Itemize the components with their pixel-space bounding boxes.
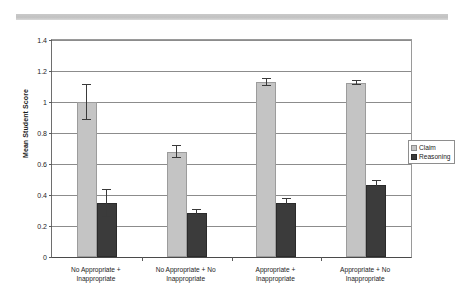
y-tick-label: 0.4 — [37, 192, 47, 199]
bar-claim-group-2 — [167, 152, 187, 257]
x-tick-mark — [142, 257, 143, 261]
x-axis-label-group-3: Appropriate + Inappropriate — [231, 265, 321, 283]
legend-swatch-claim-icon — [411, 145, 417, 151]
y-tick-mark — [49, 257, 52, 258]
error-bar-cap-top — [282, 198, 291, 199]
bar-reasoning-group-1 — [97, 203, 117, 257]
error-bar-cap-top — [172, 145, 181, 146]
y-axis-title: Mean Student Score — [22, 69, 29, 179]
gridline — [52, 71, 411, 72]
y-tick-label: 1.2 — [37, 68, 47, 75]
y-tick-mark — [49, 164, 52, 165]
legend-swatch-reasoning-icon — [411, 154, 417, 160]
y-tick-label: 0.6 — [37, 161, 47, 168]
gridline — [52, 40, 411, 41]
chart-legend: ClaimReasoning — [408, 140, 455, 164]
error-bar-cap-top — [262, 78, 271, 79]
y-tick-mark — [49, 133, 52, 134]
bar-reasoning-group-2 — [187, 213, 207, 257]
y-tick-label: 0.2 — [37, 223, 47, 230]
legend-item-reasoning: Reasoning — [411, 152, 451, 161]
x-tick-mark — [321, 257, 322, 261]
y-tick-label: 1 — [43, 99, 47, 106]
error-bar-cap-top — [352, 80, 361, 81]
x-tick-mark — [232, 257, 233, 261]
y-tick-mark — [49, 226, 52, 227]
y-tick-mark — [49, 195, 52, 196]
error-bar-cap-top — [372, 180, 381, 181]
y-tick-mark — [49, 102, 52, 103]
y-tick-mark — [49, 40, 52, 41]
bar-chart-figure: Mean Student Score 00.20.40.60.811.21.4 … — [0, 24, 468, 298]
bar-claim-group-1 — [77, 102, 97, 257]
legend-label-claim: Claim — [419, 144, 436, 151]
y-tick-label: 1.4 — [37, 37, 47, 44]
y-tick-mark — [49, 71, 52, 72]
y-tick-label: 0.8 — [37, 130, 47, 137]
bar-reasoning-group-3 — [276, 203, 296, 257]
scan-artifact-strip — [16, 14, 448, 20]
x-axis-label-group-2: No Appropriate + No Inappropriate — [141, 265, 231, 283]
error-bar-cap-top — [192, 209, 201, 210]
y-tick-label: 0 — [43, 254, 47, 261]
bar-claim-group-3 — [256, 82, 276, 257]
bar-reasoning-group-4 — [366, 185, 386, 257]
error-bar-cap-top — [82, 84, 91, 85]
plot-area: 00.20.40.60.811.21.4 — [51, 39, 412, 258]
x-axis-label-group-4: Appropriate + No Inappropriate — [320, 265, 410, 283]
x-axis-label-group-1: No Appropriate + Inappropriate — [51, 265, 141, 283]
legend-label-reasoning: Reasoning — [419, 153, 451, 160]
bar-claim-group-4 — [346, 83, 366, 257]
error-bar-cap-top — [102, 189, 111, 190]
legend-item-claim: Claim — [411, 143, 451, 152]
